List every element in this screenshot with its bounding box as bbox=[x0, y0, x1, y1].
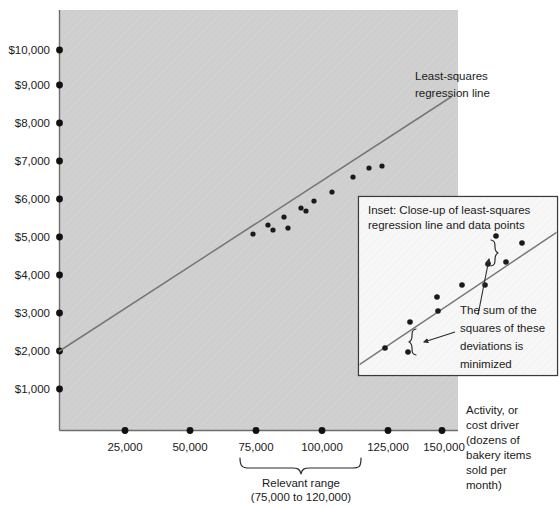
inset-data-point bbox=[493, 233, 499, 239]
data-point bbox=[311, 198, 316, 203]
y-tick-dot bbox=[56, 196, 63, 203]
inset-data-point bbox=[519, 240, 525, 246]
y-tick-label: $5,000 bbox=[15, 231, 50, 243]
data-point bbox=[250, 231, 255, 236]
y-axis-tick-labels: $1,000 $2,000 $3,000 $4,000 $5,000 $6,00… bbox=[8, 44, 50, 395]
inset-data-point bbox=[503, 259, 509, 265]
y-tick-dot bbox=[56, 158, 63, 165]
x-axis-title-line: Activity, or bbox=[466, 404, 518, 416]
inset-note-line: minimized bbox=[460, 358, 512, 370]
inset-data-point bbox=[405, 349, 411, 355]
data-point bbox=[350, 174, 355, 179]
inset-caption-line2: regression line and data points bbox=[368, 219, 525, 231]
data-point bbox=[379, 163, 384, 168]
inset-note-line: deviations is bbox=[460, 340, 524, 352]
regression-label-line1: Least-squares bbox=[415, 70, 488, 82]
y-tick-label: $10,000 bbox=[8, 44, 50, 56]
inset-note-line: The sum of the bbox=[460, 304, 537, 316]
data-point bbox=[265, 222, 270, 227]
x-axis-title-line: cost driver bbox=[466, 419, 519, 431]
x-tick-label: 100,000 bbox=[301, 441, 343, 453]
x-tick-dot bbox=[319, 427, 326, 434]
x-tick-dot bbox=[439, 427, 446, 434]
y-tick-dot bbox=[56, 386, 63, 393]
inset-note-line: squares of these bbox=[460, 322, 545, 334]
x-tick-label: 25,000 bbox=[107, 441, 142, 453]
x-axis-title-line: bakery items bbox=[466, 449, 531, 461]
data-point bbox=[329, 189, 334, 194]
chart-canvas: $1,000 $2,000 $3,000 $4,000 $5,000 $6,00… bbox=[0, 0, 559, 505]
x-tick-label: 150,000 bbox=[423, 441, 465, 453]
data-point bbox=[270, 227, 275, 232]
y-tick-label: $4,000 bbox=[15, 269, 50, 281]
y-tick-dot bbox=[56, 234, 63, 241]
inset-data-point bbox=[434, 294, 440, 300]
x-axis-title-line: month) bbox=[466, 479, 502, 491]
y-tick-dot bbox=[56, 310, 63, 317]
y-tick-dot bbox=[56, 47, 63, 54]
y-tick-label: $7,000 bbox=[15, 155, 50, 167]
inset-data-point bbox=[435, 308, 441, 314]
inset-data-point bbox=[407, 319, 413, 325]
y-tick-dot bbox=[56, 82, 63, 89]
x-tick-dot bbox=[187, 427, 194, 434]
x-tick-label: 125,000 bbox=[367, 441, 409, 453]
y-tick-label: $3,000 bbox=[15, 307, 50, 319]
relevant-range-brace bbox=[240, 458, 361, 474]
inset-panel: Inset: Close-up of least-squares regress… bbox=[359, 197, 558, 376]
y-tick-label: $8,000 bbox=[15, 117, 50, 129]
data-point bbox=[281, 214, 286, 219]
y-tick-dot bbox=[56, 272, 63, 279]
inset-data-point bbox=[382, 345, 388, 351]
inset-caption-line1: Inset: Close-up of least-squares bbox=[368, 204, 531, 216]
x-tick-label: 50,000 bbox=[172, 441, 207, 453]
inset-data-point bbox=[459, 282, 465, 288]
data-point bbox=[303, 208, 308, 213]
relevant-range-line1: Relevant range bbox=[262, 477, 340, 489]
x-axis-title-line: (dozens of bbox=[466, 434, 521, 446]
x-tick-dot bbox=[385, 427, 392, 434]
y-tick-label: $6,000 bbox=[15, 193, 50, 205]
y-tick-label: $2,000 bbox=[15, 345, 50, 357]
x-axis-title: Activity, or cost driver (dozens of bake… bbox=[466, 404, 531, 491]
y-tick-dot bbox=[56, 120, 63, 127]
regression-label-line2: regression line bbox=[415, 87, 490, 99]
relevant-range-line2: (75,000 to 120,000) bbox=[251, 491, 352, 503]
data-point bbox=[285, 225, 290, 230]
data-point bbox=[366, 165, 371, 170]
relevant-range-label: Relevant range (75,000 to 120,000) bbox=[251, 477, 352, 503]
x-axis-tick-labels: 25,000 50,000 75,000 100,000 125,000 150… bbox=[107, 441, 464, 453]
y-tick-label: $1,000 bbox=[15, 383, 50, 395]
x-tick-dot bbox=[122, 427, 129, 434]
data-point bbox=[298, 205, 303, 210]
x-tick-label: 75,000 bbox=[238, 441, 273, 453]
y-tick-label: $9,000 bbox=[15, 79, 50, 91]
x-tick-dot bbox=[253, 427, 260, 434]
cost-estimation-scatter-chart: $1,000 $2,000 $3,000 $4,000 $5,000 $6,00… bbox=[0, 0, 559, 505]
x-axis-title-line: sold per bbox=[466, 464, 507, 476]
